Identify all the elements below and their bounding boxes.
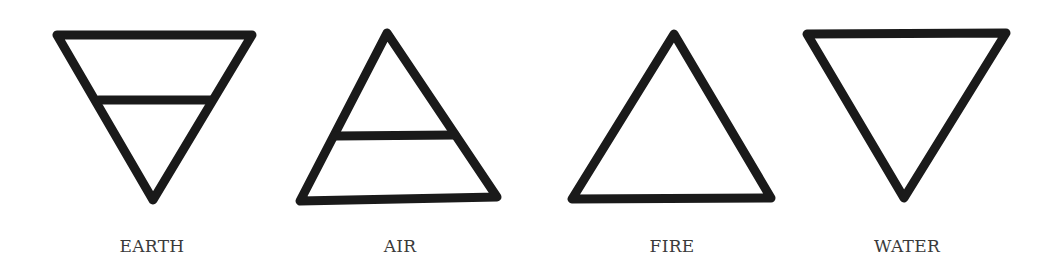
earth-symbol (57, 35, 252, 200)
air-triangle-icon (300, 33, 497, 201)
fire-label: FIRE (592, 236, 752, 256)
fire-triangle-icon (572, 34, 771, 199)
air-label: AIR (320, 236, 480, 256)
water-label: WATER (827, 236, 987, 256)
earth-label: EARTH (72, 236, 232, 256)
air-symbol (300, 33, 497, 201)
earth-triangle-icon (57, 35, 252, 200)
air-bar (336, 135, 455, 136)
water-triangle-icon (807, 33, 1006, 198)
water-symbol (807, 33, 1006, 198)
fire-symbol (572, 34, 771, 199)
